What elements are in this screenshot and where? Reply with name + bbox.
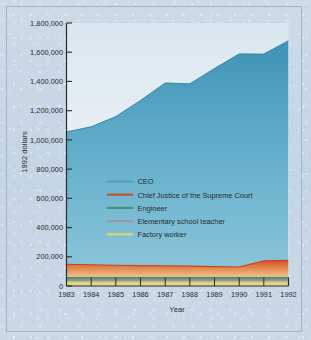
y-axis-title: 1992 dollars — [20, 131, 29, 173]
x-tick-label: 1992 — [280, 290, 296, 299]
legend-label-engineer: Engineer — [138, 204, 168, 213]
legend-label-chief-justice: Chief Justice of the Supreme Court — [138, 191, 253, 200]
legend-label-elementary-school-teacher: Elementary school teacher — [138, 217, 226, 226]
y-tick-label: 600,000 — [36, 194, 63, 203]
x-tick-label: 1985 — [108, 290, 124, 299]
y-tick-label: 400,000 — [36, 223, 63, 232]
chart-figure: 1,800,000 1,600,000 1,400,000 1,200,000 … — [0, 0, 311, 340]
legend-label-factory-worker: Factory worker — [138, 230, 187, 239]
y-tick-label: 800,000 — [36, 165, 63, 174]
y-axis-tick-labels: 1,800,000 1,600,000 1,400,000 1,200,000 … — [30, 19, 63, 291]
series-area-factory-worker — [67, 282, 289, 286]
area-chart: 1,800,000 1,600,000 1,400,000 1,200,000 … — [0, 0, 311, 340]
x-tick-label: 1991 — [256, 290, 272, 299]
x-tick-label: 1989 — [206, 290, 222, 299]
y-tick-label: 1,000,000 — [30, 136, 63, 145]
x-tick-label: 1990 — [231, 290, 247, 299]
y-tick-label: 1,800,000 — [30, 19, 63, 28]
y-tick-label: 1,400,000 — [30, 77, 63, 86]
x-tick-label: 1987 — [157, 290, 173, 299]
x-axis-title: Year — [169, 305, 185, 314]
x-axis-tick-labels: 1983 1984 1985 1986 1987 1988 1989 1990 … — [58, 290, 296, 299]
x-tick-label: 1983 — [58, 290, 74, 299]
legend-label-ceo: CEO — [138, 177, 154, 186]
x-tick-label: 1986 — [132, 290, 148, 299]
x-tick-label: 1988 — [182, 290, 198, 299]
x-tick-label: 1984 — [83, 290, 99, 299]
y-tick-label: 200,000 — [36, 252, 63, 261]
plot-area — [67, 23, 289, 286]
y-tick-label: 1,200,000 — [30, 106, 63, 115]
y-tick-label: 1,600,000 — [30, 48, 63, 57]
